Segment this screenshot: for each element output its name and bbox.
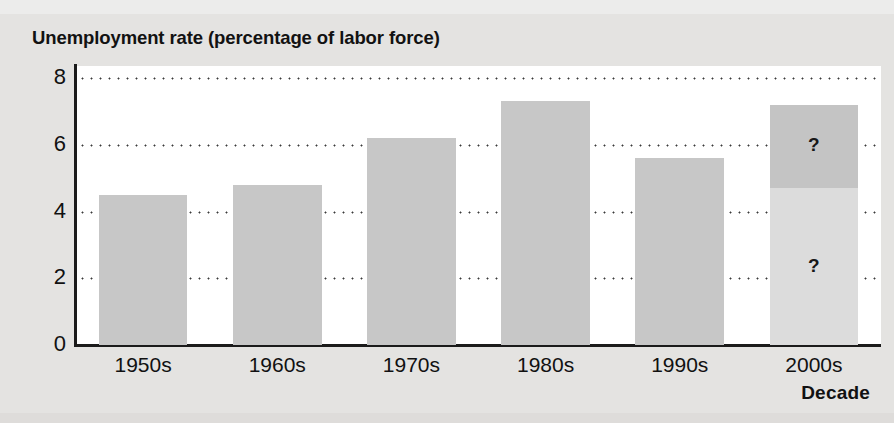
bar-2000s-segment-1: ? [770,188,859,345]
chart-figure: Unemployment rate (percentage of labor f… [0,0,894,423]
y-tick-label-8: 8 [8,66,66,88]
bars-layer: ?? [76,66,881,345]
bar-1990s [635,158,724,345]
x-axis-tick-labels: 1950s1960s1970s1980s1990s2000s [76,351,881,383]
bar-2000s-unknown-marker-2: ? [770,134,859,156]
bar-1960s [233,185,322,345]
y-tick-label-0: 0 [8,333,66,355]
chart-title: Unemployment rate (percentage of labor f… [32,27,440,49]
bar-2000s-segment-2: ? [770,105,859,188]
y-tick-label-4: 4 [8,200,66,222]
y-tick-label-2: 2 [8,266,66,288]
x-tick-label-1960s: 1960s [210,351,344,379]
y-tick-label-6: 6 [8,133,66,155]
x-tick-label-1980s: 1980s [479,351,613,379]
bar-1970s [367,138,456,345]
x-tick-label-1950s: 1950s [76,351,210,379]
x-axis-title: Decade [801,382,870,404]
x-tick-label-2000s: 2000s [747,351,881,379]
bar-1980s [501,101,590,345]
bar-1950s [99,195,188,345]
x-tick-label-1970s: 1970s [344,351,478,379]
x-tick-label-1990s: 1990s [613,351,747,379]
bar-2000s-unknown-marker-1: ? [770,255,859,277]
y-axis-tick-labels: 02468 [0,0,66,423]
